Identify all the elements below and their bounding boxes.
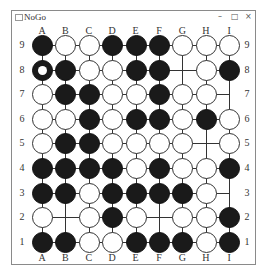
black-stone-d9 (102, 35, 123, 56)
row-label-8: 8 (241, 64, 253, 76)
row-label-7: 7 (16, 88, 28, 100)
black-stone-d4 (102, 158, 123, 179)
empty-point-f2[interactable] (149, 207, 170, 228)
black-stone-c6 (79, 109, 100, 130)
column-label-a: A (36, 252, 48, 264)
row-label-2: 2 (241, 211, 253, 223)
white-stone-c1 (79, 232, 100, 253)
row-label-5: 5 (241, 137, 253, 149)
empty-point-h5[interactable] (196, 133, 217, 154)
column-label-c: C (83, 252, 95, 264)
black-stone-e6 (126, 109, 147, 130)
black-stone-f6 (149, 109, 170, 130)
black-stone-c7 (79, 84, 100, 105)
row-label-6: 6 (16, 113, 28, 125)
black-stone-f8 (149, 60, 170, 81)
white-stone-c3 (79, 183, 100, 204)
column-label-g: G (176, 252, 188, 264)
white-stone-g5 (172, 133, 193, 154)
black-stone-g3 (172, 183, 193, 204)
column-label-f: F (153, 252, 165, 264)
white-stone-i9 (219, 35, 240, 56)
row-label-3: 3 (241, 187, 253, 199)
row-label-3: 3 (16, 187, 28, 199)
empty-point-i3[interactable] (219, 183, 240, 204)
column-label-h: H (200, 252, 212, 264)
white-stone-c2 (79, 207, 100, 228)
column-label-e: E (130, 252, 142, 264)
black-stone-i2 (219, 207, 240, 228)
last-move-marker-icon (38, 66, 47, 75)
black-stone-c5 (79, 133, 100, 154)
white-stone-b6 (55, 109, 76, 130)
white-stone-g2 (172, 207, 193, 228)
white-stone-a7 (32, 84, 53, 105)
black-stone-b7 (55, 84, 76, 105)
black-stone-d2 (102, 207, 123, 228)
white-stone-g7 (172, 84, 193, 105)
white-stone-d7 (102, 84, 123, 105)
empty-point-i7[interactable] (219, 84, 240, 105)
empty-point-b2[interactable] (55, 207, 76, 228)
black-stone-f3 (149, 183, 170, 204)
white-stone-h7 (196, 84, 217, 105)
white-stone-d8 (102, 60, 123, 81)
row-label-6: 6 (241, 113, 253, 125)
white-stone-g6 (172, 109, 193, 130)
black-stone-b1 (55, 232, 76, 253)
black-stone-d3 (102, 183, 123, 204)
black-stone-c4 (79, 158, 100, 179)
white-stone-d6 (102, 109, 123, 130)
black-stone-e9 (126, 35, 147, 56)
black-stone-i8 (219, 60, 240, 81)
black-stone-f7 (149, 84, 170, 105)
black-stone-e8 (126, 60, 147, 81)
black-stone-f4 (149, 158, 170, 179)
black-stone-a8 (32, 60, 53, 81)
column-label-d: D (106, 252, 118, 264)
black-stone-b3 (55, 183, 76, 204)
row-label-9: 9 (16, 39, 28, 51)
black-stone-e3 (126, 183, 147, 204)
row-label-2: 2 (16, 211, 28, 223)
black-stone-b5 (55, 133, 76, 154)
white-stone-e5 (126, 133, 147, 154)
black-stone-a1 (32, 232, 53, 253)
black-stone-f9 (149, 35, 170, 56)
black-stone-e1 (126, 232, 147, 253)
white-stone-h3 (196, 183, 217, 204)
row-label-8: 8 (16, 64, 28, 76)
white-stone-a5 (32, 133, 53, 154)
black-stone-a9 (32, 35, 53, 56)
white-stone-h1 (196, 232, 217, 253)
white-stone-e2 (126, 207, 147, 228)
white-stone-a2 (32, 207, 53, 228)
row-label-9: 9 (241, 39, 253, 51)
empty-point-g8[interactable] (172, 60, 193, 81)
white-stone-c9 (79, 35, 100, 56)
row-label-4: 4 (16, 162, 28, 174)
white-stone-i6 (219, 109, 240, 130)
column-label-i: I (223, 252, 235, 264)
white-stone-h8 (196, 60, 217, 81)
white-stone-d5 (102, 133, 123, 154)
black-stone-g1 (172, 232, 193, 253)
white-stone-g9 (172, 35, 193, 56)
black-stone-a4 (32, 158, 53, 179)
row-label-1: 1 (16, 236, 28, 248)
game-board[interactable]: AABBCCDDEEFFGGHHII998877665544332211 (12, 11, 257, 266)
white-stone-g4 (172, 158, 193, 179)
white-stone-f5 (149, 133, 170, 154)
white-stone-b9 (55, 35, 76, 56)
black-stone-a3 (32, 183, 53, 204)
black-stone-b4 (55, 158, 76, 179)
nogo-window: NoGo – □ × AABBCCDDEEFFGGHHII99887766554… (11, 10, 256, 265)
black-stone-b8 (55, 60, 76, 81)
black-stone-h6 (196, 109, 217, 130)
white-stone-i5 (219, 133, 240, 154)
white-stone-h2 (196, 207, 217, 228)
row-label-1: 1 (241, 236, 253, 248)
white-stone-e7 (126, 84, 147, 105)
row-label-4: 4 (241, 162, 253, 174)
white-stone-e4 (126, 158, 147, 179)
